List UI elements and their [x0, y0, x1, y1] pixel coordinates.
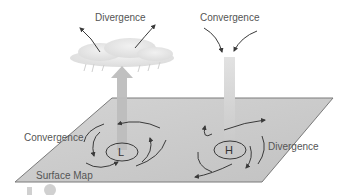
upper-divergence-label: Divergence — [95, 12, 146, 23]
surface-map-label: Surface Map — [36, 170, 93, 181]
circulation-diagram: Divergence Convergence Convergence Diver… — [0, 0, 344, 195]
upper-convergence-label: Convergence — [200, 12, 260, 23]
decorative-shapes — [27, 184, 56, 195]
convergence-arrow-right — [234, 31, 257, 51]
surface-divergence-label: Divergence — [268, 141, 319, 152]
surface-convergence-label: Convergence — [24, 132, 84, 143]
sinking-air-column — [224, 57, 235, 147]
convergence-arrow-left — [204, 28, 222, 52]
low-pressure-center: L — [118, 146, 124, 158]
high-pressure-center: H — [225, 144, 233, 156]
